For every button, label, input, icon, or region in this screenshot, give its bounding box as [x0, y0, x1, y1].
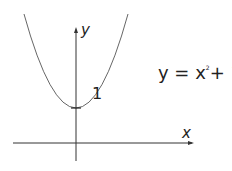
intercept-label: 1 [92, 86, 102, 102]
equation: y = x2+ 1 [158, 64, 232, 82]
equation-lhs: y = x [158, 62, 206, 83]
equation-exponent: 2 [206, 64, 210, 71]
equation-rhs: + 1 [210, 62, 232, 83]
y-axis-label: y [81, 23, 90, 38]
x-axis-label: x [182, 126, 191, 141]
y-axis-arrow-icon [74, 27, 78, 33]
parabola-graph [0, 0, 232, 171]
